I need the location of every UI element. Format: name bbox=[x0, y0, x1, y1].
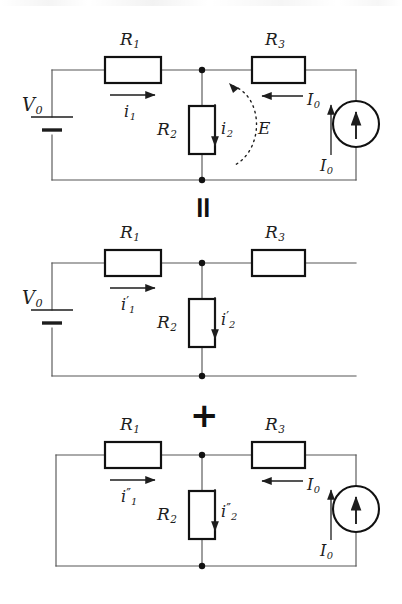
resistor-r1-original bbox=[105, 57, 161, 83]
label-r3-original: R3 bbox=[265, 31, 285, 50]
figure-canvas: R1 R3 R2 V0 i1 i2 E I0 I0 = R1 R3 R2 V0 … bbox=[0, 0, 402, 604]
label-i2-current-only: i″2 bbox=[221, 503, 237, 522]
resistor-r1-voltage-only bbox=[105, 250, 161, 276]
label-mesh-e-original: E bbox=[258, 120, 270, 137]
mesh-loop-arrowhead-original bbox=[229, 83, 239, 93]
resistor-r3-voltage-only bbox=[252, 250, 305, 276]
current-source-current-only bbox=[333, 486, 379, 532]
node-bottom-voltage-only bbox=[199, 373, 205, 379]
resistor-r3-current-only bbox=[252, 442, 305, 468]
label-v0-voltage-only: V0 bbox=[22, 289, 43, 310]
current-source-original bbox=[333, 101, 379, 147]
label-r1-original: R1 bbox=[120, 31, 140, 50]
label-v0-original: V0 bbox=[22, 96, 43, 117]
label-i1-current-only: i″1 bbox=[121, 488, 137, 507]
label-r2-current-only: R2 bbox=[157, 506, 177, 525]
mesh-loop-arc-original bbox=[233, 86, 257, 165]
voltage-source-battery-original bbox=[31, 117, 73, 130]
label-i1-original: i1 bbox=[124, 103, 136, 122]
resistor-r3-original bbox=[252, 57, 305, 83]
label-r3-current-only: R3 bbox=[265, 416, 285, 435]
label-i0-branch-current-only: I0 bbox=[307, 477, 320, 495]
operator-equals: = bbox=[189, 195, 219, 219]
label-i0-branch-original: I0 bbox=[307, 92, 320, 110]
label-r3-voltage-only: R3 bbox=[265, 224, 285, 243]
resistor-r2-current-only bbox=[189, 491, 215, 539]
node-bottom-current-only bbox=[199, 563, 205, 569]
node-top-original bbox=[199, 67, 205, 73]
circuit-voltage-only bbox=[31, 250, 356, 379]
resistor-r1-current-only bbox=[105, 442, 161, 468]
node-top-voltage-only bbox=[199, 260, 205, 266]
label-r1-current-only: R1 bbox=[120, 416, 140, 435]
label-i1-voltage-only: i′1 bbox=[121, 296, 135, 315]
label-i0-source-current-only: I0 bbox=[320, 543, 333, 561]
label-r1-voltage-only: R1 bbox=[120, 224, 140, 243]
operator-plus: + bbox=[190, 398, 219, 432]
label-i2-voltage-only: i′2 bbox=[221, 311, 235, 330]
node-top-current-only bbox=[199, 452, 205, 458]
label-i2-original: i2 bbox=[221, 120, 233, 139]
label-r2-voltage-only: R2 bbox=[157, 314, 177, 333]
resistor-r2-voltage-only bbox=[189, 299, 215, 347]
label-i0-source-original: I0 bbox=[320, 158, 333, 176]
circuit-svg bbox=[0, 0, 402, 604]
label-r2-original: R2 bbox=[157, 121, 177, 140]
resistor-r2-original bbox=[189, 106, 215, 154]
node-bottom-original bbox=[199, 177, 205, 183]
voltage-source-battery-voltage-only bbox=[31, 310, 73, 323]
